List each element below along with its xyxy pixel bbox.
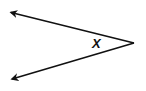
angle-svg — [0, 0, 146, 91]
angle-label: X — [92, 37, 101, 50]
angle-diagram: X — [0, 0, 146, 91]
lower-ray — [12, 43, 134, 79]
upper-ray — [11, 13, 134, 44]
